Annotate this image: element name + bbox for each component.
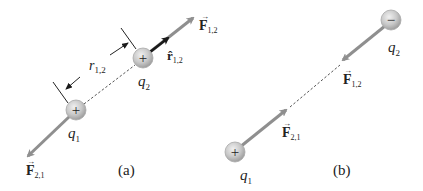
panel-b: + − q1 q2 → F1,2 → F2,1 (b) <box>225 10 401 186</box>
unit-vector-label: r̂1,2 <box>167 48 183 65</box>
charge-q2: − <box>381 10 401 30</box>
distance-label: r1,2 <box>89 58 106 75</box>
q1-label: q1 <box>240 167 252 186</box>
force-f21-label: F2,1 <box>282 125 301 142</box>
charge-q1: + <box>225 142 245 162</box>
q1-label: q1 <box>68 125 80 144</box>
charge-sign: + <box>72 102 80 118</box>
coulomb-force-diagram: r1,2 + + q1 q2 r̂1,2 → F1,2 → F2,1 (a) <box>0 0 423 191</box>
charge-sign: + <box>231 144 239 160</box>
force-f12-label: F1,2 <box>343 72 362 89</box>
distance-arrow-q2 <box>110 43 128 55</box>
q2-label: q2 <box>138 73 150 92</box>
charge-sign: − <box>387 12 395 28</box>
unit-vector-arrow <box>150 38 168 52</box>
panel-a-label: (a) <box>118 162 135 179</box>
panel-b-label: (b) <box>333 162 351 179</box>
q2-label: q2 <box>388 39 400 58</box>
distance-arrow-q1 <box>66 77 80 89</box>
force-arrow-f21 <box>28 116 70 156</box>
distance-tick-q1 <box>53 82 68 103</box>
charge-q1: + <box>66 100 86 120</box>
separation-line <box>290 65 340 107</box>
force-arrow-f12 <box>343 26 385 60</box>
force-arrow-f21 <box>240 110 286 147</box>
panel-a: r1,2 + + q1 q2 r̂1,2 → F1,2 → F2,1 (a) <box>26 12 218 180</box>
charge-sign: + <box>139 50 147 66</box>
force-f21-label: F2,1 <box>26 163 45 180</box>
charge-q2: + <box>133 48 153 68</box>
